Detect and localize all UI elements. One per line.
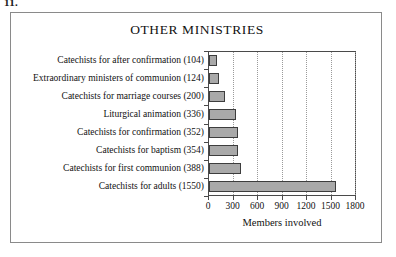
y-axis-tick bbox=[204, 124, 209, 125]
x-axis-tick bbox=[257, 196, 258, 200]
x-axis-tick bbox=[355, 196, 356, 200]
x-axis-tick bbox=[282, 196, 283, 200]
x-axis-tick bbox=[331, 196, 332, 200]
bar bbox=[209, 127, 238, 138]
x-axis-tick bbox=[233, 196, 234, 200]
bar bbox=[209, 55, 217, 66]
bar bbox=[209, 145, 238, 156]
y-axis-tick bbox=[204, 160, 209, 161]
category-label: Catechists for first communion (388) bbox=[63, 163, 204, 174]
category-label: Extraordinary ministers of communion (12… bbox=[33, 73, 204, 84]
gridline bbox=[331, 52, 332, 195]
figure-caption: 11. bbox=[4, 0, 18, 7]
bar bbox=[209, 163, 241, 174]
x-axis-title: Members involved bbox=[208, 217, 356, 228]
y-axis-tick bbox=[204, 105, 209, 106]
gridline bbox=[306, 52, 307, 195]
x-axis-tick bbox=[306, 196, 307, 200]
y-axis-tick bbox=[204, 87, 209, 88]
bar bbox=[209, 109, 236, 120]
category-label: Catechists for marriage courses (200) bbox=[62, 91, 204, 102]
bar bbox=[209, 73, 219, 84]
gridline bbox=[257, 52, 258, 195]
category-axis-labels: Catechists for after confirmation (104)E… bbox=[11, 51, 204, 196]
category-label: Catechists for adults (1550) bbox=[99, 181, 204, 192]
chart-frame: OTHER MINISTRIES Catechists for after co… bbox=[10, 12, 382, 243]
y-axis-tick bbox=[204, 178, 209, 179]
category-label: Liturgical animation (336) bbox=[103, 109, 204, 120]
y-axis-tick bbox=[204, 69, 209, 70]
category-label: Catechists for confirmation (352) bbox=[77, 127, 204, 138]
y-axis-tick bbox=[204, 142, 209, 143]
category-label: Catechists for baptism (354) bbox=[96, 145, 204, 156]
category-label: Catechists for after confirmation (104) bbox=[57, 55, 204, 66]
gridline bbox=[282, 52, 283, 195]
y-axis-tick bbox=[204, 51, 209, 52]
bar bbox=[209, 181, 336, 192]
x-axis-tick-label: 1800 bbox=[335, 201, 375, 211]
plot-area: 0300600900120015001800 bbox=[208, 51, 356, 196]
chart-title: OTHER MINISTRIES bbox=[11, 22, 383, 38]
gridline bbox=[355, 52, 356, 195]
bar bbox=[209, 91, 225, 102]
y-axis-tick bbox=[204, 196, 209, 197]
